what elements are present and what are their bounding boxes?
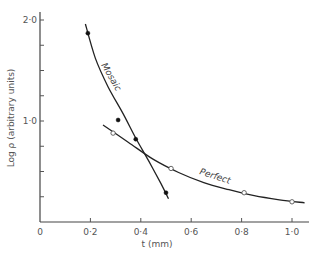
y-tick-label: 2·0 <box>23 15 38 25</box>
y-tick-label: 1·0 <box>23 116 38 126</box>
data-point-filled <box>86 31 90 35</box>
chart: 1·02·0 00·20·40·60·81·0 Log ρ (arbitrary… <box>0 0 314 257</box>
data-point-filled <box>134 137 138 141</box>
x-tick-label: 0·4 <box>134 227 149 237</box>
series-mosaic <box>85 24 168 199</box>
x-tick-label: 0 <box>37 227 43 237</box>
x-axis-label: t (mm) <box>142 239 173 249</box>
data-point-open <box>111 131 115 135</box>
x-tick-label: 0·6 <box>184 227 199 237</box>
x-tick-label: 1·0 <box>285 227 300 237</box>
data-point-open <box>290 200 294 204</box>
x-axis: 00·20·40·60·81·0 <box>37 218 309 237</box>
data-point-filled <box>164 191 168 195</box>
plot-area <box>85 24 304 204</box>
y-axis: 1·02·0 <box>23 12 44 222</box>
curve-line <box>85 24 168 199</box>
data-point-open <box>169 166 173 170</box>
data-point-filled <box>116 118 120 122</box>
curve-line <box>103 125 305 203</box>
x-tick-label: 0·8 <box>234 227 249 237</box>
data-point-open <box>242 191 246 195</box>
y-axis-label: Log ρ (arbitrary units) <box>6 69 16 168</box>
series-perfect <box>103 125 305 204</box>
x-tick-label: 0·2 <box>83 227 97 237</box>
